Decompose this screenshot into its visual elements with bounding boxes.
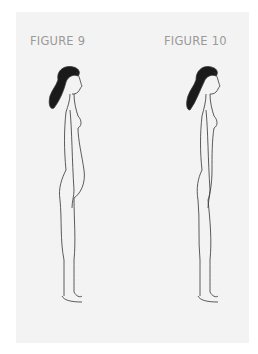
figure-10-caption: FIGURE 10 bbox=[164, 34, 227, 48]
figure-9-illustration bbox=[30, 60, 110, 305]
figure-9-caption: FIGURE 9 bbox=[30, 34, 85, 48]
figure-10-illustration bbox=[170, 60, 250, 305]
